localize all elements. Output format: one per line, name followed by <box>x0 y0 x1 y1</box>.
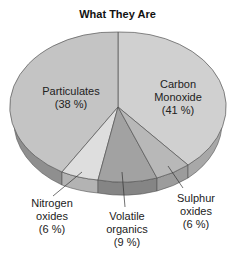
label-value: (41 %) <box>143 104 213 117</box>
label-name: Carbon <box>143 78 213 91</box>
label-value: (9 %) <box>99 236 155 249</box>
label-name-2: oxides <box>168 205 224 218</box>
label-volatile-organics: Volatile organics (9 %) <box>99 210 155 249</box>
label-name: Nitrogen <box>24 197 80 210</box>
label-nitrogen-oxides: Nitrogen oxides (6 %) <box>24 197 80 236</box>
label-value: (6 %) <box>168 218 224 231</box>
label-name-2: organics <box>99 223 155 236</box>
label-carbon-monoxide: Carbon Monoxide (41 %) <box>143 78 213 117</box>
label-name: Volatile <box>99 210 155 223</box>
label-name: Sulphur <box>168 192 224 205</box>
label-value: (38 %) <box>38 98 104 111</box>
label-particulates: Particulates (38 %) <box>38 85 104 111</box>
label-value: (6 %) <box>24 223 80 236</box>
label-name-2: oxides <box>24 210 80 223</box>
label-name: Particulates <box>38 85 104 98</box>
label-name-2: Monoxide <box>143 91 213 104</box>
label-sulphur-oxides: Sulphur oxides (6 %) <box>168 192 224 231</box>
